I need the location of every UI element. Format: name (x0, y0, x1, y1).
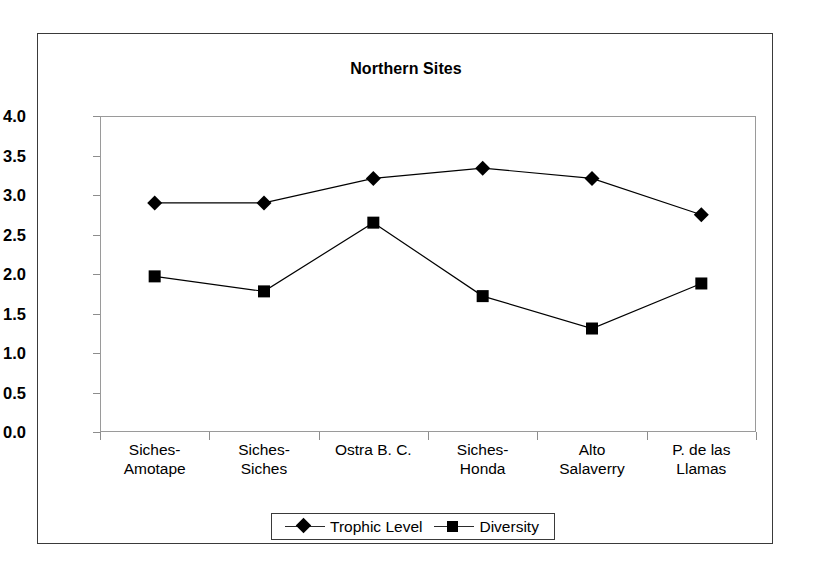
diamond-marker-icon (257, 195, 272, 210)
series-layer (38, 34, 774, 545)
diamond-marker-icon (694, 207, 709, 222)
y-axis-tick-label: 2.0 (0, 265, 26, 284)
diamond-marker-icon (585, 171, 600, 186)
diamond-marker-icon (366, 171, 381, 186)
legend-label: Trophic Level (328, 518, 424, 536)
y-axis-tick-label: 1.5 (0, 304, 26, 323)
square-marker-icon (258, 285, 270, 297)
square-marker-icon (434, 520, 474, 534)
diamond-marker-icon (285, 520, 325, 534)
series-trophic-level (147, 161, 709, 223)
y-axis-tick-label: 0.5 (0, 383, 26, 402)
y-axis-tick-label: 4.0 (0, 107, 26, 126)
diamond-marker-icon (475, 161, 490, 176)
square-marker-icon (149, 270, 161, 282)
chart-legend: Trophic Level Diversity (271, 513, 555, 540)
legend-item-diversity: Diversity (434, 518, 540, 536)
square-marker-icon (586, 323, 598, 335)
square-marker-icon (695, 277, 707, 289)
square-marker-icon (367, 217, 379, 229)
y-axis-tick-label: 2.5 (0, 225, 26, 244)
y-axis-tick-label: 3.0 (0, 186, 26, 205)
y-axis-tick-label: 0.0 (0, 423, 26, 442)
square-marker-icon (477, 290, 489, 302)
series-line (155, 223, 702, 329)
y-axis-tick-label: 3.5 (0, 146, 26, 165)
legend-item-trophic-level: Trophic Level (285, 518, 424, 536)
y-axis-tick-label: 1.0 (0, 344, 26, 363)
diamond-marker-icon (147, 195, 162, 210)
series-line (155, 168, 702, 215)
series-diversity (149, 217, 708, 335)
legend-label: Diversity (477, 518, 540, 536)
chart-figure: Northern Sites 4.03.53.02.52.01.51.00.50… (37, 33, 773, 544)
